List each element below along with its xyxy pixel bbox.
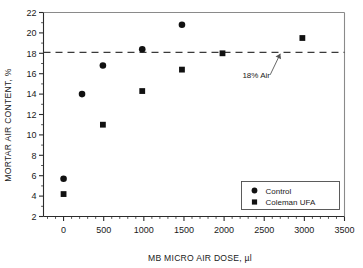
- chart-legend: ControlColeman UFA: [242, 182, 340, 210]
- x-tick-label: 1500: [174, 225, 194, 235]
- data-point: [179, 67, 185, 73]
- data-point: [61, 191, 67, 197]
- annotation-18-percent-air: 18% Air: [242, 54, 281, 80]
- legend-label: Control: [266, 187, 292, 196]
- data-point: [179, 21, 186, 28]
- legend-label: Coleman UFA: [266, 198, 316, 207]
- chart-figure: 0500100015002000250030003500 24681012141…: [0, 0, 363, 268]
- data-point: [79, 91, 86, 98]
- y-tick-label: 22: [26, 8, 36, 18]
- data-point: [139, 88, 145, 94]
- x-axis-tick-labels: 0500100015002000250030003500: [61, 225, 354, 235]
- x-axis-title: MB MICRO AIR DOSE, µl: [148, 253, 252, 263]
- legend-marker-square: [252, 199, 257, 204]
- series-control-points: [60, 21, 185, 182]
- y-tick-label: 8: [31, 151, 36, 161]
- legend-marker-circle: [252, 188, 258, 194]
- series-coleman-ufa-points: [61, 35, 306, 197]
- y-axis-tick-labels: 246810121416182022: [26, 8, 36, 222]
- x-tick-label: 1000: [134, 225, 154, 235]
- y-tick-label: 12: [26, 110, 36, 120]
- data-point: [139, 46, 146, 53]
- x-tick-label: 3500: [334, 225, 354, 235]
- y-tick-label: 20: [26, 28, 36, 38]
- data-point: [100, 62, 107, 69]
- x-tick-label: 500: [96, 225, 111, 235]
- data-point: [220, 50, 226, 56]
- annotation-label: 18% Air: [242, 71, 270, 80]
- data-point: [299, 35, 305, 41]
- y-axis-title: MORTAR AIR CONTENT, %: [3, 68, 13, 181]
- y-tick-label: 4: [31, 191, 36, 201]
- y-tick-label: 6: [31, 171, 36, 181]
- x-tick-label: 3000: [294, 225, 314, 235]
- data-point: [100, 122, 106, 128]
- x-tick-label: 0: [61, 225, 66, 235]
- x-tick-label: 2000: [214, 225, 234, 235]
- x-axis-major-ticks: [64, 217, 345, 222]
- y-tick-label: 16: [26, 69, 36, 79]
- y-tick-label: 2: [31, 212, 36, 222]
- x-tick-label: 2500: [254, 225, 274, 235]
- data-point: [60, 175, 67, 182]
- y-tick-label: 10: [26, 130, 36, 140]
- y-tick-label: 18: [26, 49, 36, 59]
- y-tick-label: 14: [26, 89, 36, 99]
- scatter-plot: 0500100015002000250030003500 24681012141…: [0, 0, 363, 268]
